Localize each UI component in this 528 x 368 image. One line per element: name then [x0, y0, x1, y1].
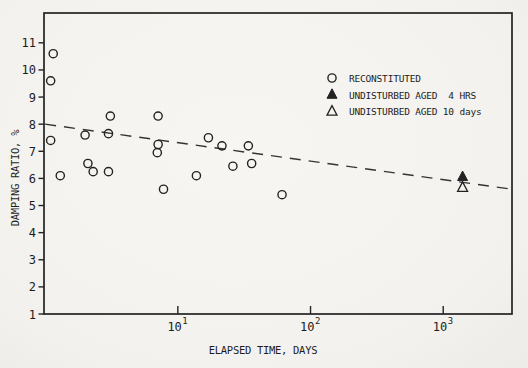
y-tick-label: 1	[29, 308, 36, 322]
x-tick-label-base: 10	[433, 320, 447, 334]
data-point-open-circle	[153, 149, 161, 157]
y-tick-label: 11	[22, 36, 36, 50]
y-tick-label: 5	[29, 199, 36, 213]
y-tick-label: 3	[29, 253, 36, 267]
data-point-open-circle	[49, 50, 57, 58]
series-open-circle	[47, 50, 287, 199]
plot-border	[44, 13, 512, 314]
y-tick-label: 9	[29, 91, 36, 105]
trend-dashed-line	[45, 124, 512, 189]
data-point-open-circle	[106, 112, 114, 120]
x-tick-label-exponent: 3	[448, 316, 453, 326]
data-point-open-circle	[192, 172, 200, 180]
legend-item: RECONSTITUTED	[328, 73, 421, 84]
legend-marker-filled-triangle	[327, 89, 337, 99]
legend: RECONSTITUTEDUNDISTURBED AGED 4 HRSUNDIS…	[327, 73, 481, 118]
x-tick-label-exponent: 2	[315, 316, 320, 326]
data-point-open-circle	[204, 134, 212, 142]
legend-item: UNDISTURBED AGED 10 days	[327, 106, 481, 118]
legend-marker-open-circle	[328, 74, 336, 82]
data-point-open-circle	[154, 112, 162, 120]
data-point-open-circle	[154, 140, 162, 148]
data-point-filled-triangle	[458, 171, 468, 181]
data-point-open-circle	[244, 142, 252, 150]
data-point-open-circle	[56, 172, 64, 180]
y-tick-label: 8	[29, 118, 36, 132]
series-filled-triangle	[458, 171, 468, 181]
data-point-open-circle	[47, 77, 55, 85]
legend-item: UNDISTURBED AGED 4 HRS	[327, 89, 476, 101]
scatter-figure: 1234567891011101102103ELAPSED TIME, DAYS…	[0, 0, 528, 368]
legend-label: UNDISTURBED AGED 10 days	[349, 106, 481, 117]
scatter-plot: 1234567891011101102103ELAPSED TIME, DAYS…	[0, 0, 528, 368]
y-tick-label: 2	[29, 280, 36, 294]
y-tick-label: 10	[22, 63, 36, 77]
y-axis-title: DAMPING RATIO, %	[9, 129, 21, 226]
data-point-open-circle	[84, 159, 92, 167]
x-tick-label-base: 10	[167, 320, 181, 334]
data-point-open-circle	[248, 159, 256, 167]
data-point-open-circle	[81, 131, 89, 139]
legend-label: RECONSTITUTED	[349, 73, 421, 84]
y-tick-label: 6	[29, 172, 36, 186]
legend-marker-open-triangle	[327, 106, 337, 116]
x-tick-label-base: 10	[300, 320, 314, 334]
data-point-open-circle	[159, 185, 167, 193]
y-tick-label: 4	[29, 226, 36, 240]
data-point-open-circle	[104, 168, 112, 176]
data-point-open-circle	[278, 191, 286, 199]
x-tick-label-exponent: 1	[182, 316, 187, 326]
y-tick-label: 7	[29, 145, 36, 159]
data-point-open-circle	[89, 168, 97, 176]
legend-label: UNDISTURBED AGED 4 HRS	[349, 90, 476, 101]
x-axis-title: ELAPSED TIME, DAYS	[209, 344, 317, 356]
data-point-open-circle	[229, 162, 237, 170]
data-point-open-circle	[47, 136, 55, 144]
